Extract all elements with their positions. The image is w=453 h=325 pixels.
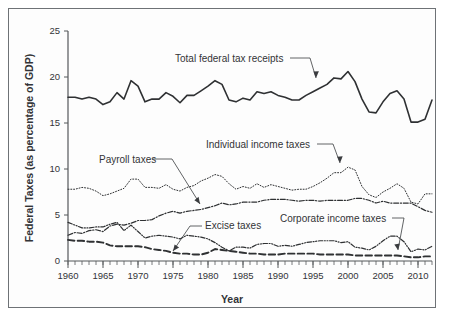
y-tick-label: 25 — [49, 25, 60, 36]
arrowhead-total-federal-tax-receipts — [313, 71, 319, 78]
x-tick-label: 2005 — [372, 270, 393, 281]
chart-figure: Federal Taxes (as percentage of GDP) Yea… — [0, 0, 453, 325]
annotation-total-federal-tax-receipts: Total federal tax receipts — [175, 53, 319, 78]
x-tick-label: 1975 — [162, 270, 183, 281]
arrowhead-individual-income-taxes — [337, 156, 343, 163]
annotation-payroll-taxes: Payroll taxes — [99, 154, 200, 204]
y-tick-label: 15 — [49, 117, 60, 128]
y-axis-title: Federal Taxes (as percentage of GDP) — [23, 54, 35, 242]
leader-line-total-federal-tax-receipts — [290, 58, 316, 78]
annotation-label-excise-taxes: Excise taxes — [205, 220, 261, 231]
y-tick-label: 5 — [55, 209, 60, 220]
y-tick-label: 0 — [55, 255, 60, 266]
x-tick-label: 1965 — [92, 270, 113, 281]
x-tick-label: 1985 — [232, 270, 253, 281]
x-tick-label: 2000 — [337, 270, 358, 281]
series-line-individual-income-taxes — [68, 167, 432, 204]
x-tick-label: 2010 — [407, 270, 428, 281]
arrowhead-excise-taxes — [173, 244, 179, 251]
annotation-label-individual-income-taxes: Individual income taxes — [206, 139, 310, 150]
series-line-total-federal-tax-receipts — [68, 71, 432, 122]
x-tick-label: 1990 — [267, 270, 288, 281]
arrowhead-payroll-taxes — [194, 197, 200, 204]
y-tick-group: 0510152025 — [49, 25, 68, 266]
y-tick-label: 10 — [49, 163, 60, 174]
y-tick-label: 20 — [49, 71, 60, 82]
x-axis-title-text: Year — [221, 293, 243, 305]
x-tick-label: 1995 — [302, 270, 323, 281]
annotation-label-payroll-taxes: Payroll taxes — [99, 154, 156, 165]
annotation-label-total-federal-tax-receipts: Total federal tax receipts — [175, 53, 283, 64]
x-tick-label: 1970 — [127, 270, 148, 281]
x-tick-label: 1960 — [57, 270, 78, 281]
annotation-excise-taxes: Excise taxes — [173, 220, 261, 251]
annotation-label-corporate-income-taxes: Corporate income taxes — [280, 213, 386, 224]
y-axis-title-text: Federal Taxes (as percentage of GDP) — [23, 54, 35, 242]
chart-svg: Federal Taxes (as percentage of GDP) Yea… — [0, 0, 453, 325]
leader-line-payroll-taxes — [152, 159, 200, 204]
x-tick-label: 1980 — [197, 270, 218, 281]
annotation-individual-income-taxes: Individual income taxes — [206, 139, 343, 163]
leader-line-individual-income-taxes — [317, 144, 340, 163]
